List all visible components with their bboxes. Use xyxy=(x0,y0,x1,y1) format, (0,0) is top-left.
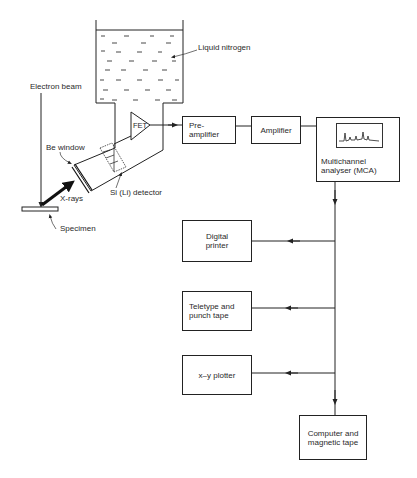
digital-printer-line1: Digital xyxy=(206,232,229,241)
teletype-line1: Teletype and xyxy=(189,302,234,311)
liquid-nitrogen-leader xyxy=(173,50,197,57)
computer-block: Computer andmagnetic tape xyxy=(299,415,367,460)
amplifier-block: Amplifier xyxy=(251,116,301,144)
preamplifier-line1: Pre- xyxy=(189,121,219,130)
digital-printer-line2: printer xyxy=(206,241,229,250)
fet-label: FET xyxy=(133,121,147,130)
amplifier-label: Amplifier xyxy=(260,126,291,135)
mca-line2: analyser (MCA) xyxy=(321,166,377,175)
be-window-label: Be window xyxy=(46,143,85,152)
teletype-block: Teletype andpunch tape xyxy=(182,291,252,331)
specimen xyxy=(22,207,58,211)
mca-line1: Multichannel xyxy=(321,157,377,166)
specimen-label: Specimen xyxy=(60,224,96,233)
mca-screen xyxy=(336,123,383,148)
computer-line1: Computer and xyxy=(308,429,359,438)
mca-label: Multichannel analyser (MCA) xyxy=(321,157,377,175)
digital-printer-block: Digitalprinter xyxy=(182,220,252,262)
si-li-detector-label: Si (Li) detector xyxy=(110,188,162,197)
xy-plotter-label: x–y plotter xyxy=(199,371,236,380)
si-li-crystal xyxy=(100,143,126,172)
be-window-leader xyxy=(60,152,70,163)
electron-beam-label: Electron beam xyxy=(30,82,82,91)
preamplifier-block: Pre-amplifier xyxy=(182,116,236,144)
teletype-line2: punch tape xyxy=(189,311,234,320)
liquid-nitrogen-label: Liquid nitrogen xyxy=(198,43,250,52)
computer-line2: magnetic tape xyxy=(308,438,359,447)
x-rays-label: X-rays xyxy=(60,194,83,203)
preamplifier-line2: amplifier xyxy=(189,130,219,139)
xy-plotter-block: x–y plotter xyxy=(182,355,252,395)
liquid-nitrogen-fill xyxy=(100,36,179,100)
specimen-leader xyxy=(50,216,56,229)
spectrum-trace-icon xyxy=(337,124,382,147)
mca-block: Multichannel analyser (MCA) xyxy=(316,117,400,182)
